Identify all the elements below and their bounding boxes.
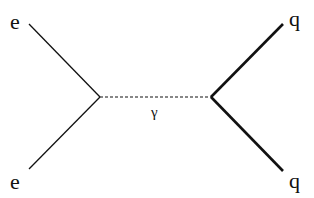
- quark-line-top: [211, 24, 283, 97]
- label-electron-bottom: e: [10, 169, 20, 194]
- electron-line-bottom: [29, 97, 100, 169]
- label-quark-top: q: [289, 6, 300, 31]
- feynman-diagram: e e q q γ: [0, 0, 314, 198]
- label-electron-top: e: [10, 9, 20, 34]
- label-quark-bottom: q: [289, 168, 300, 193]
- quark-line-bottom: [211, 97, 283, 171]
- electron-line-top: [29, 24, 100, 97]
- label-photon: γ: [150, 104, 158, 120]
